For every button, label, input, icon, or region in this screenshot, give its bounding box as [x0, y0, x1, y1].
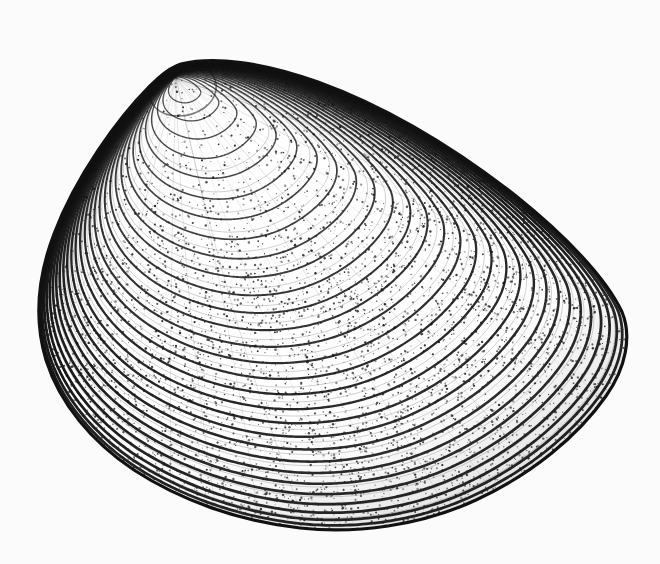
illustration-figure: Black and white stipple drawing of a biv…	[0, 0, 660, 564]
bivalve-shell-illustration	[0, 0, 660, 564]
